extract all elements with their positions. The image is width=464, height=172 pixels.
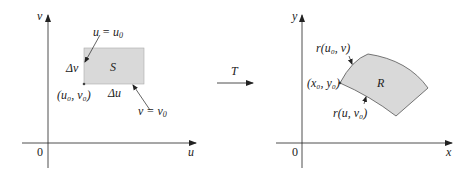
- right-origin-label: 0: [292, 145, 298, 159]
- left-plot: v u 0 S u = u0 v = v0 Δv Δu (u₀, v₀): [22, 9, 196, 168]
- left-x-axis-label: u: [188, 145, 194, 159]
- corner-label-xy: (x₀, y₀): [307, 76, 340, 90]
- right-plot: y x 0 R (x₀, y₀) r(u₀, v) r(u, v₀): [276, 9, 452, 168]
- label-v-eq-v0: v = v0: [138, 104, 167, 119]
- transform-label: T: [231, 64, 239, 78]
- right-x-axis-label: x: [445, 145, 452, 159]
- corner-label-uv: (u₀, v₀): [57, 88, 91, 102]
- bottom-curve-label: r(u, v₀): [333, 106, 367, 120]
- region-s-label: S: [110, 60, 116, 74]
- pointer-top-curve: [349, 56, 352, 64]
- pointer-bottom-curve: [364, 97, 366, 104]
- right-y-axis-label: y: [291, 9, 298, 23]
- label-u-eq-u0: u = u0: [93, 25, 123, 40]
- diagram-canvas: v u 0 S u = u0 v = v0 Δv Δu (u₀, v₀) T y…: [0, 0, 464, 172]
- top-curve-label: r(u₀, v): [316, 41, 350, 55]
- corner-point-uv: [83, 83, 86, 86]
- left-origin-label: 0: [37, 145, 43, 159]
- delta-v-label: Δv: [65, 61, 79, 75]
- delta-u-label: Δu: [107, 86, 121, 100]
- transform-arrow: T: [217, 64, 253, 83]
- left-y-axis-label: v: [37, 9, 43, 23]
- region-r-label: R: [376, 76, 385, 90]
